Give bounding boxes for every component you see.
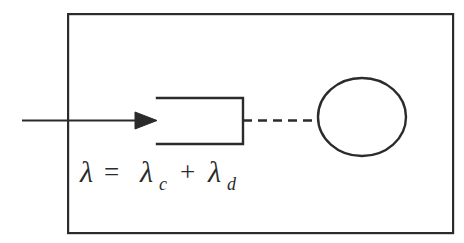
equation-plus-sign: + (180, 157, 195, 187)
lambda-equation: λ = λ c + λ d (79, 155, 237, 194)
equation-lambda-c: λ (139, 155, 153, 188)
figure-canvas: λ = λ c + λ d (0, 0, 464, 243)
arrival-arrow-head (135, 112, 157, 129)
server-block (157, 98, 243, 144)
arrival-arrow (22, 112, 157, 129)
equation-subscript-c: c (159, 174, 167, 194)
equation-lambda-d: λ (207, 155, 221, 188)
equation-equals-sign: = (104, 157, 119, 187)
system-boundary (68, 14, 453, 233)
equation-lambda-total: λ (79, 155, 93, 188)
queue-node-circle (318, 78, 406, 156)
equation-subscript-d: d (227, 174, 237, 194)
